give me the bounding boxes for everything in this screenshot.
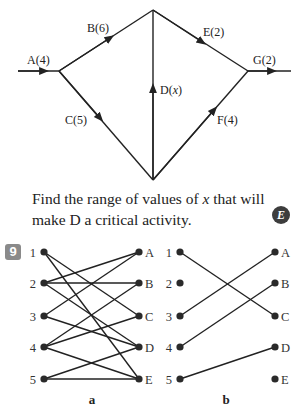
question-line2: make D a critical activity. xyxy=(32,211,192,228)
question-text: Find the range of values of x that will … xyxy=(32,188,272,230)
graph-b-edge-5-D xyxy=(180,347,275,379)
graph-a-right-label-A: A xyxy=(145,246,154,260)
bipartite-graph-a: 12345ABCDE xyxy=(30,246,154,387)
graph-b-right-label-A: A xyxy=(281,246,290,260)
graph-a-left-label-5: 5 xyxy=(30,373,36,387)
graph-b-right-node-C xyxy=(271,312,278,319)
activity-label-f: F(4) xyxy=(217,113,238,127)
activity-label-a: A(4) xyxy=(27,53,50,67)
graph-b-right-node-A xyxy=(271,248,278,255)
graph-a-left-node-2 xyxy=(40,279,47,286)
graph-b-right-node-B xyxy=(271,279,278,286)
activity-network: A(4) B(6) C(5) D(x) E(2) F(4) G(2) xyxy=(18,10,291,180)
graph-b-right-node-D xyxy=(271,343,278,350)
graph-b-left-node-4 xyxy=(176,343,183,350)
activity-label-d: D(x) xyxy=(160,83,182,97)
exercise-number-badge: 9 xyxy=(5,244,21,260)
activity-e-arrow xyxy=(153,10,202,42)
activity-b-arrow xyxy=(59,38,110,71)
graph-a-right-node-B xyxy=(135,279,142,286)
graph-a-edge-2-A xyxy=(44,252,139,283)
graph-b-left-label-3: 3 xyxy=(166,310,172,324)
graph-a-left-node-3 xyxy=(40,312,47,319)
extension-badge-icon: E xyxy=(272,206,290,224)
graph-a-left-label-1: 1 xyxy=(30,246,36,260)
graph-b-left-label-5: 5 xyxy=(166,373,172,387)
graph-b-left-label-1: 1 xyxy=(166,246,172,260)
graph-a-left-node-1 xyxy=(40,248,47,255)
activity-f-arrow xyxy=(153,110,214,180)
activity-c-arrow xyxy=(59,71,100,118)
activity-label-b: B(6) xyxy=(87,21,109,35)
activity-label-g: G(2) xyxy=(253,53,276,67)
graph-a-right-label-B: B xyxy=(145,277,153,291)
question-line1-post: that will xyxy=(209,190,264,207)
graph-b-left-node-1 xyxy=(176,248,183,255)
question-line1-pre: Find the range of values of xyxy=(32,190,202,207)
graph-a-right-node-E xyxy=(135,375,142,382)
graph-b-label: b xyxy=(222,392,229,407)
graph-a-left-node-5 xyxy=(40,375,47,382)
graph-a-right-node-D xyxy=(135,343,142,350)
activity-label-c: C(5) xyxy=(65,113,87,127)
graph-b-right-label-B: B xyxy=(281,277,289,291)
graph-b-right-label-C: C xyxy=(281,310,289,324)
graph-b-left-node-3 xyxy=(176,312,183,319)
graph-b-left-node-5 xyxy=(176,375,183,382)
graph-b-right-label-D: D xyxy=(281,341,290,355)
graph-a-right-label-D: D xyxy=(145,341,154,355)
graph-a-left-node-4 xyxy=(40,343,47,350)
graph-a-label: a xyxy=(89,392,96,407)
graph-b-left-label-2: 2 xyxy=(166,277,172,291)
graph-a-right-node-A xyxy=(135,248,142,255)
bipartite-graph-b: 12345ABCDE xyxy=(166,246,290,387)
graph-b-left-node-2 xyxy=(176,279,183,286)
graph-b-right-node-E xyxy=(271,375,278,382)
graph-a-left-label-2: 2 xyxy=(30,277,36,291)
graph-a-left-label-4: 4 xyxy=(30,341,37,355)
graph-b-left-label-4: 4 xyxy=(166,341,173,355)
graph-a-left-label-3: 3 xyxy=(30,310,36,324)
activity-label-e: E(2) xyxy=(203,25,224,39)
graph-a-right-label-E: E xyxy=(145,373,153,387)
graph-b-right-label-E: E xyxy=(281,373,289,387)
graph-a-right-label-C: C xyxy=(145,310,153,324)
graph-b-edge-4-B xyxy=(180,283,275,347)
graph-a-right-node-C xyxy=(135,312,142,319)
